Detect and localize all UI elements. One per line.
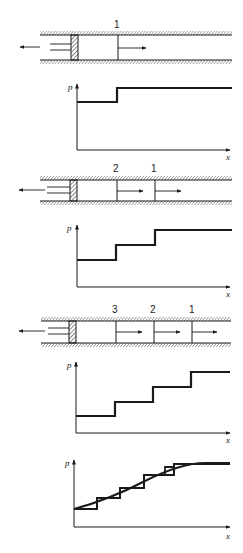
x-axis-label: x bbox=[225, 152, 230, 162]
wave-front-3: 3 bbox=[112, 304, 142, 343]
pressure-plot-3: p x bbox=[66, 360, 230, 445]
pressure-plot-1: p x bbox=[67, 82, 232, 162]
wave-label: 2 bbox=[113, 163, 119, 174]
pressure-step-curve bbox=[76, 372, 230, 416]
piston bbox=[48, 321, 76, 343]
wave-front-1: 1 bbox=[189, 304, 217, 343]
wave-front-2: 2 bbox=[113, 163, 143, 201]
piston bbox=[50, 35, 78, 60]
wave-label: 2 bbox=[150, 304, 156, 315]
y-axis-label: p bbox=[66, 223, 72, 233]
wave-front-1: 1 bbox=[114, 19, 146, 60]
x-axis-label: x bbox=[225, 435, 230, 445]
wave-label: 1 bbox=[114, 19, 120, 30]
tube-panel-1: 1 bbox=[20, 19, 232, 64]
pressure-step-curve bbox=[77, 230, 232, 260]
pressure-step-curve bbox=[77, 88, 232, 102]
pressure-plot-continuous: p x bbox=[64, 458, 230, 541]
tube-panel-2: 2 1 bbox=[19, 163, 232, 205]
wave-label: 3 bbox=[112, 304, 118, 315]
y-axis-label: p bbox=[64, 458, 70, 468]
tube-panel-3: 3 2 1 bbox=[19, 304, 231, 347]
wave-front-2: 2 bbox=[150, 304, 180, 343]
wave-label: 1 bbox=[189, 304, 195, 315]
wave-front-1: 1 bbox=[151, 163, 181, 201]
pressure-plot-2: p x bbox=[66, 223, 232, 299]
x-axis-label: x bbox=[225, 531, 230, 541]
wave-label: 1 bbox=[151, 163, 157, 174]
x-axis-label: x bbox=[225, 289, 230, 299]
y-axis-label: p bbox=[66, 360, 72, 370]
piston bbox=[47, 180, 77, 201]
expansion-wave-diagram: 1 p x 2 1 p bbox=[0, 0, 243, 553]
y-axis-label: p bbox=[67, 82, 73, 92]
